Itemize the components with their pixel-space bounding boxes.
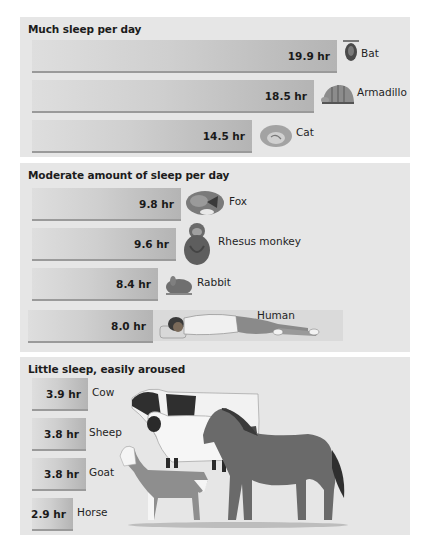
bar-value: 3.8 hr [44, 468, 79, 480]
bar-value: 3.8 hr [44, 428, 79, 440]
bar-value: 9.6 hr [134, 238, 169, 250]
cat-icon [259, 123, 294, 149]
bar-rhesus-monkey: 9.6 hr [32, 228, 176, 259]
bar-rabbit: 8.4 hr [32, 268, 158, 299]
bar-bat: 19.9 hr [32, 40, 337, 71]
label-sheep: Sheep [89, 426, 122, 438]
bar-cow: 3.9 hr [32, 378, 88, 409]
bar-value: 19.9 hr [288, 50, 330, 62]
bar-value: 18.5 hr [265, 90, 307, 102]
bar-human: 8.0 hr [28, 310, 153, 341]
bar-horse: 2.9 hr [32, 498, 73, 529]
bar-fox: 9.8 hr [32, 188, 181, 219]
panel-title: Moderate amount of sleep per day [28, 169, 229, 181]
label-fox: Fox [229, 195, 247, 207]
rabbit-icon [165, 275, 193, 295]
armadillo-icon [320, 82, 356, 108]
label-armadillo: Armadillo [357, 86, 407, 98]
bar-value: 3.9 hr [46, 388, 81, 400]
bat-icon [342, 39, 360, 63]
panel-title: Little sleep, easily aroused [28, 363, 185, 375]
bar-value: 8.0 hr [111, 320, 146, 332]
bar-value: 8.4 hr [116, 278, 151, 290]
bar-armadillo: 18.5 hr [32, 80, 314, 111]
livestock-illustration-icon [118, 380, 353, 530]
bar-value: 2.9 hr [31, 508, 66, 520]
label-human: Human [257, 309, 295, 321]
bar-value: 9.8 hr [139, 198, 174, 210]
label-bat: Bat [361, 47, 379, 59]
bar-cat: 14.5 hr [32, 120, 252, 151]
rhesus-monkey-icon [182, 222, 212, 270]
human-icon [158, 310, 323, 342]
label-cat: Cat [296, 126, 314, 138]
label-rhesus-monkey: Rhesus monkey [218, 235, 301, 247]
label-horse: Horse [77, 506, 108, 518]
label-rabbit: Rabbit [197, 276, 231, 288]
panel-title: Much sleep per day [28, 23, 141, 35]
fox-icon [185, 190, 225, 218]
bar-goat: 3.8 hr [32, 458, 86, 489]
label-goat: Goat [89, 466, 114, 478]
bar-sheep: 3.8 hr [32, 418, 86, 449]
bar-value: 14.5 hr [203, 130, 245, 142]
label-cow: Cow [92, 386, 114, 398]
